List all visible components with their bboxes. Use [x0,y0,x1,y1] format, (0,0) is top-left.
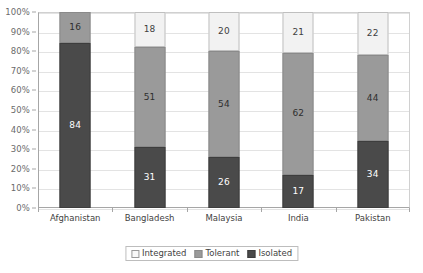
y-tick-mark [32,149,36,150]
legend-label: Tolerant [205,249,239,258]
y-tick-mark [32,110,36,111]
bar-segment-tolerant[interactable]: 16 [60,12,91,43]
y-tick-mark [32,70,36,71]
y-tick-label: 40% [11,125,30,134]
y-tick-mark [32,208,36,209]
bar-segment-integrated[interactable]: 22 [357,12,388,55]
legend-item-tolerant[interactable]: Tolerant [194,249,239,258]
bar-group: 185131 [112,12,186,208]
bar-segment-tolerant[interactable]: 44 [357,55,388,141]
bar-segment-tolerant[interactable]: 51 [134,47,165,147]
x-tick-label-malaysia: Malaysia [205,214,242,223]
bar-group: 224434 [336,12,410,208]
bar-segment-isolated[interactable]: 26 [208,157,239,208]
y-tick-label: 90% [11,27,30,36]
y-axis: 0%10%20%30%40%50%60%70%80%90%100% [0,12,36,208]
y-tick-mark [32,168,36,169]
bar-group: 216217 [261,12,335,208]
bar-segment-tolerant[interactable]: 62 [283,53,314,175]
bar-segment-integrated[interactable]: 21 [283,12,314,53]
y-tick-label: 100% [5,8,30,17]
legend-item-isolated[interactable]: Isolated [247,249,292,258]
x-tick-mark [336,208,337,212]
y-tick-mark [32,51,36,52]
x-tick-mark [187,208,188,212]
bar-segment-isolated[interactable]: 17 [283,175,314,208]
bar-stack[interactable]: 1684 [60,12,91,208]
bar-segment-isolated[interactable]: 84 [60,43,91,208]
bar-segment-tolerant[interactable]: 54 [208,51,239,157]
bar-group: 1684 [38,12,112,208]
y-tick-mark [32,12,36,13]
x-tick-label-afghanistan: Afghanistan [50,214,101,223]
legend-label: Isolated [258,249,292,258]
y-tick-label: 70% [11,67,30,76]
bar-stack[interactable]: 185131 [134,12,165,208]
x-tick-mark [261,208,262,212]
y-tick-label: 60% [11,86,30,95]
bar-stack[interactable]: 205426 [208,12,239,208]
legend-label: Integrated [142,249,187,258]
x-tick-mark [38,208,39,212]
bar-segment-isolated[interactable]: 34 [357,141,388,208]
x-tick-mark [112,208,113,212]
y-tick-mark [32,129,36,130]
y-tick-label: 30% [11,145,30,154]
bar-segment-integrated[interactable]: 20 [208,12,239,51]
y-tick-mark [32,31,36,32]
legend-item-integrated[interactable]: Integrated [131,249,187,258]
y-tick-label: 0% [16,204,30,213]
x-tick-label-bangladesh: Bangladesh [125,214,175,223]
bar-stack[interactable]: 224434 [357,12,388,208]
bar-segment-integrated[interactable]: 18 [134,12,165,47]
y-tick-label: 10% [11,184,30,193]
x-tick-label-pakistan: Pakistan [355,214,391,223]
y-tick-mark [32,188,36,189]
y-tick-label: 80% [11,47,30,56]
y-tick-label: 50% [11,106,30,115]
x-tick-label-india: India [288,214,309,223]
x-axis: AfghanistanBangladeshMalaysiaIndiaPakist… [38,208,410,232]
x-tick-mark [409,208,410,212]
bars-layer: 1684185131205426216217224434 [38,12,410,208]
stacked-bar-chart: 0%10%20%30%40%50%60%70%80%90%100% 168418… [0,0,423,273]
legend-swatch-tolerant [194,250,202,258]
y-tick-mark [32,90,36,91]
chart-legend: IntegratedTolerantIsolated [125,246,298,261]
bar-segment-isolated[interactable]: 31 [134,147,165,208]
bar-group: 205426 [187,12,261,208]
bar-stack[interactable]: 216217 [283,12,314,208]
legend-swatch-integrated [131,250,139,258]
y-tick-label: 20% [11,165,30,174]
legend-swatch-isolated [247,250,255,258]
